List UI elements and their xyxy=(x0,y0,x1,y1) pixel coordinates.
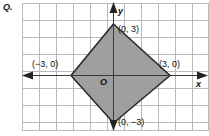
y-axis-arrow-down xyxy=(110,120,118,131)
vertex-label-top: (0, 3) xyxy=(118,25,139,34)
vertex-label-bottom: (0, −3) xyxy=(118,118,144,127)
vertex-label-left: (−3, 0) xyxy=(32,60,58,69)
x-axis-label: x xyxy=(196,80,201,89)
vertex-label-right: (3, 0) xyxy=(159,60,180,69)
y-axis-label: y xyxy=(118,7,123,16)
origin-label: O xyxy=(100,78,107,87)
question-number-label: Q. xyxy=(3,3,13,12)
x-axis-arrow-left xyxy=(22,72,33,80)
rhombus-shape xyxy=(71,24,170,123)
figure-page: Q. xyxy=(0,0,209,136)
